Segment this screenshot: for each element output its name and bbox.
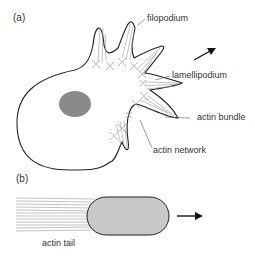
bead (87, 197, 169, 235)
actin-tail (16, 198, 95, 231)
motion-arrow-a (194, 48, 216, 60)
motion-arrow-b (177, 212, 203, 220)
nucleus (59, 91, 91, 117)
actin-network-leader (140, 120, 152, 148)
label-actin-network: actin network (153, 146, 206, 155)
diagram-canvas (0, 0, 255, 256)
filopodium-leader (138, 19, 145, 25)
label-filopodium: filopodium (147, 14, 188, 23)
label-lamellipodium: lamellipodium (172, 71, 227, 80)
label-actin-bundle: actin bundle (197, 113, 246, 122)
label-actin-tail: actin tail (42, 239, 75, 248)
